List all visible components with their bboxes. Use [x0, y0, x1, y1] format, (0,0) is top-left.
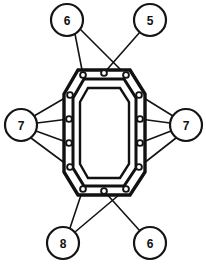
- callout-top-left[interactable]: 6: [51, 4, 83, 36]
- bolt-hole: [136, 92, 142, 98]
- leader-line-6-0: [104, 191, 140, 231]
- balloon-number: 7: [183, 119, 190, 133]
- callout-bottom-left[interactable]: 8: [47, 227, 79, 259]
- leader-line-5-0: [104, 32, 140, 73]
- bolt-hole: [137, 116, 143, 122]
- bolt-hole: [101, 188, 107, 194]
- gasket-part: [64, 70, 145, 195]
- bolt-hole: [66, 140, 72, 146]
- callout-right[interactable]: 7: [170, 109, 202, 141]
- callout-left[interactable]: 7: [5, 109, 37, 141]
- bolt-hole: [67, 92, 73, 98]
- bolt-hole: [136, 164, 142, 170]
- figure-canvas: 657786: [0, 0, 206, 265]
- bolt-hole: [101, 70, 107, 76]
- leader-line-6-1: [80, 29, 126, 75]
- bolt-hole: [80, 72, 86, 78]
- balloon-number: 6: [64, 14, 71, 28]
- balloon-number: 7: [18, 119, 25, 133]
- parts-diagram: 657786: [0, 0, 206, 265]
- gasket-bore-opening: [80, 88, 129, 178]
- bolt-hole: [67, 164, 73, 170]
- balloon-number: 8: [60, 237, 67, 251]
- balloon-number: 5: [147, 14, 154, 28]
- bolt-hole: [80, 186, 86, 192]
- bolt-hole: [66, 116, 72, 122]
- bolt-hole: [123, 186, 129, 192]
- balloon-number: 6: [147, 237, 154, 251]
- callout-bottom-right[interactable]: 6: [134, 227, 166, 259]
- bolt-hole: [123, 72, 129, 78]
- callout-top-right[interactable]: 5: [134, 4, 166, 36]
- bolt-hole: [137, 140, 143, 146]
